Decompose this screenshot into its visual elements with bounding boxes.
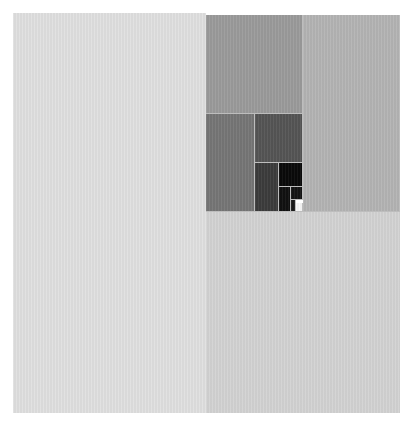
tile-top-middle: [206, 15, 303, 114]
tile-middle-left: [206, 114, 255, 212]
tile-middle-upper-right: [255, 114, 303, 163]
tile-tiny-upper-right: [291, 187, 303, 200]
tile-bottom-right: [206, 212, 400, 413]
tile-lower-left-small: [255, 163, 279, 212]
tile-white-square: [296, 203, 303, 212]
tile-black-square: [279, 163, 303, 187]
tile-tiny-left: [279, 187, 291, 212]
tile-left-large: [13, 13, 206, 413]
tile-right-upper: [303, 15, 400, 212]
